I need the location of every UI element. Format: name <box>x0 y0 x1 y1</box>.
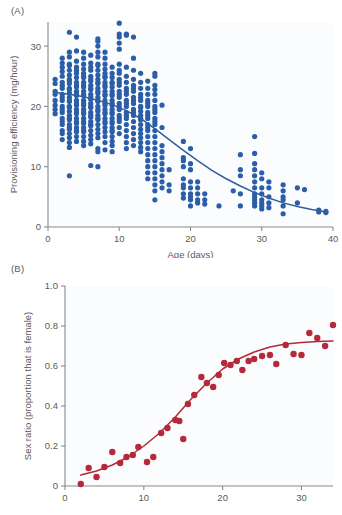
data-point <box>88 163 93 168</box>
data-point <box>81 143 86 148</box>
data-point <box>110 92 115 97</box>
data-point <box>67 173 72 178</box>
data-point <box>152 74 157 79</box>
data-point <box>88 104 93 109</box>
data-point <box>88 113 93 118</box>
data-point <box>53 98 58 103</box>
data-point <box>60 95 65 100</box>
data-point <box>67 98 72 103</box>
figure-root: (A) 0102030010203040Provisioning efficie… <box>0 0 342 515</box>
data-point <box>181 176 186 181</box>
data-point <box>159 103 164 108</box>
data-point <box>131 131 136 136</box>
y-tick-label: 0 <box>53 480 58 491</box>
data-point <box>138 135 143 140</box>
data-point <box>110 65 115 70</box>
data-point <box>74 59 79 64</box>
y-axis-title: Provisioning efficiency (mg/hour) <box>8 56 19 194</box>
data-point <box>131 98 136 103</box>
data-point <box>124 65 129 70</box>
data-point <box>95 54 100 59</box>
data-point <box>74 134 79 139</box>
data-point <box>110 75 115 80</box>
data-point <box>181 139 186 144</box>
data-point <box>117 68 122 73</box>
data-point <box>167 182 172 187</box>
data-point <box>314 335 320 341</box>
data-point <box>81 101 86 106</box>
data-point <box>188 179 193 184</box>
data-point <box>152 92 157 97</box>
data-point <box>67 87 72 92</box>
data-point <box>81 74 86 79</box>
data-point <box>67 78 72 83</box>
data-point <box>110 128 115 133</box>
data-point <box>188 197 193 202</box>
data-point <box>152 87 157 92</box>
data-point <box>152 107 157 112</box>
data-point <box>202 191 207 196</box>
data-point <box>145 164 150 169</box>
data-point <box>95 39 100 44</box>
data-point <box>159 185 164 190</box>
data-point <box>150 454 156 460</box>
data-point <box>74 68 79 73</box>
data-point <box>74 48 79 53</box>
data-point <box>266 185 271 190</box>
data-point <box>238 203 243 208</box>
data-point <box>67 63 72 68</box>
data-point <box>259 353 265 359</box>
data-point <box>159 149 164 154</box>
x-tick-label: 10 <box>139 492 150 503</box>
data-point <box>60 119 65 124</box>
y-tick-label: 0.2 <box>45 440 58 451</box>
y-tick-label: 0 <box>36 221 41 232</box>
data-point <box>67 140 72 145</box>
x-tick-label: 20 <box>185 233 196 244</box>
data-point <box>53 111 58 116</box>
data-point <box>302 187 307 192</box>
data-point <box>281 188 286 193</box>
data-point <box>95 135 100 140</box>
data-point <box>145 152 150 157</box>
x-tick-label: 20 <box>217 492 228 503</box>
data-point <box>95 164 100 169</box>
data-point <box>102 134 107 139</box>
data-point <box>117 125 122 130</box>
y-tick-label: 0.4 <box>45 400 58 411</box>
data-point <box>88 65 93 70</box>
data-point <box>216 203 221 208</box>
data-point <box>131 77 136 82</box>
data-point <box>117 80 122 85</box>
x-tick-label: 30 <box>256 233 267 244</box>
y-tick-label: 30 <box>30 41 41 52</box>
data-point <box>210 384 216 390</box>
data-point <box>67 125 72 130</box>
data-point <box>267 352 273 358</box>
data-point <box>188 167 193 172</box>
data-point <box>60 107 65 112</box>
data-point <box>124 33 129 38</box>
panel-a-plot: 0102030010203040Provisioning efficiency … <box>0 0 342 258</box>
data-point <box>95 50 100 55</box>
data-point <box>152 119 157 124</box>
data-point <box>181 195 186 200</box>
data-point <box>124 134 129 139</box>
data-point <box>145 101 150 106</box>
data-point <box>88 77 93 82</box>
data-point <box>259 206 264 211</box>
data-point <box>266 179 271 184</box>
data-point <box>252 179 257 184</box>
data-point <box>95 80 100 85</box>
x-tick-label: 30 <box>296 492 307 503</box>
data-point <box>181 158 186 163</box>
data-point <box>124 80 129 85</box>
data-point <box>88 141 93 146</box>
data-point <box>245 358 251 364</box>
data-point <box>145 86 150 91</box>
data-point <box>159 179 164 184</box>
data-point <box>238 173 243 178</box>
data-point <box>152 164 157 169</box>
data-point <box>138 122 143 127</box>
data-point <box>81 62 86 67</box>
